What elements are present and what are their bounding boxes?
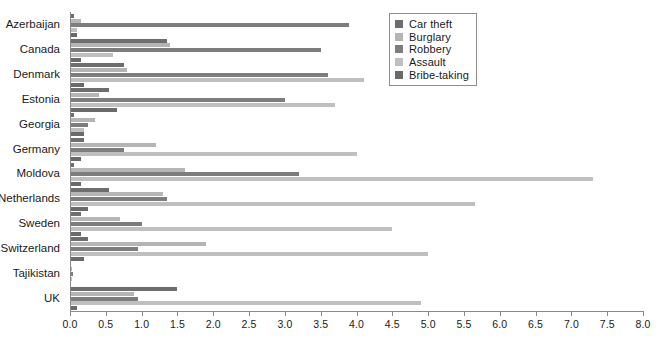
- bar: [70, 68, 127, 72]
- legend-label: Bribe-taking: [409, 69, 469, 81]
- bar: [70, 217, 120, 221]
- x-axis-tick-label: 0.5: [98, 318, 113, 330]
- x-axis-tick: [392, 311, 393, 316]
- legend-item: Burglary: [395, 31, 469, 44]
- chart-legend: Car theftBurglaryRobberyAssaultBribe-tak…: [389, 13, 477, 86]
- x-axis-tick: [464, 311, 465, 316]
- bar: [70, 88, 109, 92]
- bar: [70, 207, 88, 211]
- x-axis-tick: [106, 311, 107, 316]
- x-axis-tick: [536, 311, 537, 316]
- x-axis-tick-label: 3.5: [313, 318, 328, 330]
- bar-chart: AzerbaijanCanadaDenmarkEstoniaGeorgiaGer…: [0, 0, 660, 349]
- bar: [70, 192, 163, 196]
- x-axis-tick: [249, 311, 250, 316]
- plot-area: [70, 12, 643, 310]
- y-axis-label: UK: [44, 292, 60, 304]
- bar: [70, 108, 117, 112]
- legend-item: Assault: [395, 56, 469, 69]
- x-axis-tick-label: 5.0: [421, 318, 436, 330]
- bar: [70, 247, 138, 251]
- x-axis-tick-label: 4.0: [349, 318, 364, 330]
- y-axis-label: Canada: [20, 43, 60, 55]
- bar: [70, 83, 84, 87]
- bar: [70, 227, 392, 231]
- x-axis-tick-label: 5.5: [456, 318, 471, 330]
- x-axis-tick: [285, 311, 286, 316]
- legend-swatch-icon: [395, 71, 403, 79]
- x-axis-tick: [321, 311, 322, 316]
- bar: [70, 287, 177, 291]
- bar: [70, 73, 328, 77]
- bar: [70, 172, 299, 176]
- legend-item: Car theft: [395, 18, 469, 31]
- x-axis-tick-label: 2.5: [242, 318, 257, 330]
- x-axis-tick: [142, 311, 143, 316]
- bar: [70, 123, 88, 127]
- y-axis-label: Estonia: [22, 93, 60, 105]
- legend-label: Assault: [409, 56, 446, 68]
- y-axis-label: Sweden: [18, 217, 60, 229]
- x-axis-tick-label: 3.0: [277, 318, 292, 330]
- bar: [70, 39, 167, 43]
- legend-swatch-icon: [395, 58, 403, 66]
- bar: [70, 157, 81, 161]
- x-axis-tick-label: 7.0: [564, 318, 579, 330]
- y-axis-label: Tajikistan: [13, 267, 60, 279]
- x-axis-tick: [571, 311, 572, 316]
- x-axis-tick-label: 0.0: [63, 318, 78, 330]
- bar: [70, 28, 77, 32]
- bar: [70, 257, 84, 261]
- bar: [70, 197, 167, 201]
- y-axis-label: Moldova: [17, 167, 60, 179]
- bar: [70, 152, 357, 156]
- legend-swatch-icon: [395, 45, 403, 53]
- bar: [70, 237, 88, 241]
- bar: [70, 252, 428, 256]
- bar: [70, 33, 77, 37]
- bar: [70, 23, 349, 27]
- x-axis-tick-label: 2.0: [206, 318, 221, 330]
- x-axis-tick: [213, 311, 214, 316]
- bar: [70, 48, 321, 52]
- bar: [70, 297, 138, 301]
- legend-item: Robbery: [395, 43, 469, 56]
- bar: [70, 188, 109, 192]
- bar: [70, 93, 99, 97]
- bar: [70, 118, 95, 122]
- x-axis-tick-label: 8.0: [636, 318, 651, 330]
- bar: [70, 63, 124, 67]
- bar: [70, 128, 84, 132]
- bar: [70, 43, 170, 47]
- bar: [70, 202, 475, 206]
- y-axis-label: Azerbaijan: [6, 18, 60, 30]
- y-axis-label: Netherlands: [0, 192, 60, 204]
- x-axis-tick: [357, 311, 358, 316]
- bar: [70, 148, 124, 152]
- bar: [70, 19, 81, 23]
- bar: [70, 222, 142, 226]
- bar: [70, 306, 77, 310]
- y-axis-label: Switzerland: [1, 242, 60, 254]
- bar: [70, 103, 335, 107]
- y-axis-label: Georgia: [19, 118, 60, 130]
- bar: [70, 53, 113, 57]
- x-axis-tick: [428, 311, 429, 316]
- bar: [70, 242, 206, 246]
- y-axis-label: Denmark: [13, 68, 60, 80]
- legend-swatch-icon: [395, 33, 403, 41]
- x-axis-tick: [500, 311, 501, 316]
- bar: [70, 78, 364, 82]
- x-axis-tick-label: 6.0: [492, 318, 507, 330]
- y-axis-label: Germany: [13, 143, 60, 155]
- bar: [70, 168, 185, 172]
- x-axis-tick: [643, 311, 644, 316]
- x-axis-tick-label: 7.5: [600, 318, 615, 330]
- x-axis-tick: [70, 311, 71, 316]
- bar: [70, 58, 81, 62]
- bar: [70, 212, 81, 216]
- legend-item: Bribe-taking: [395, 68, 469, 81]
- y-axis-category-labels: AzerbaijanCanadaDenmarkEstoniaGeorgiaGer…: [0, 12, 65, 310]
- bar: [70, 292, 134, 296]
- legend-label: Burglary: [409, 31, 451, 43]
